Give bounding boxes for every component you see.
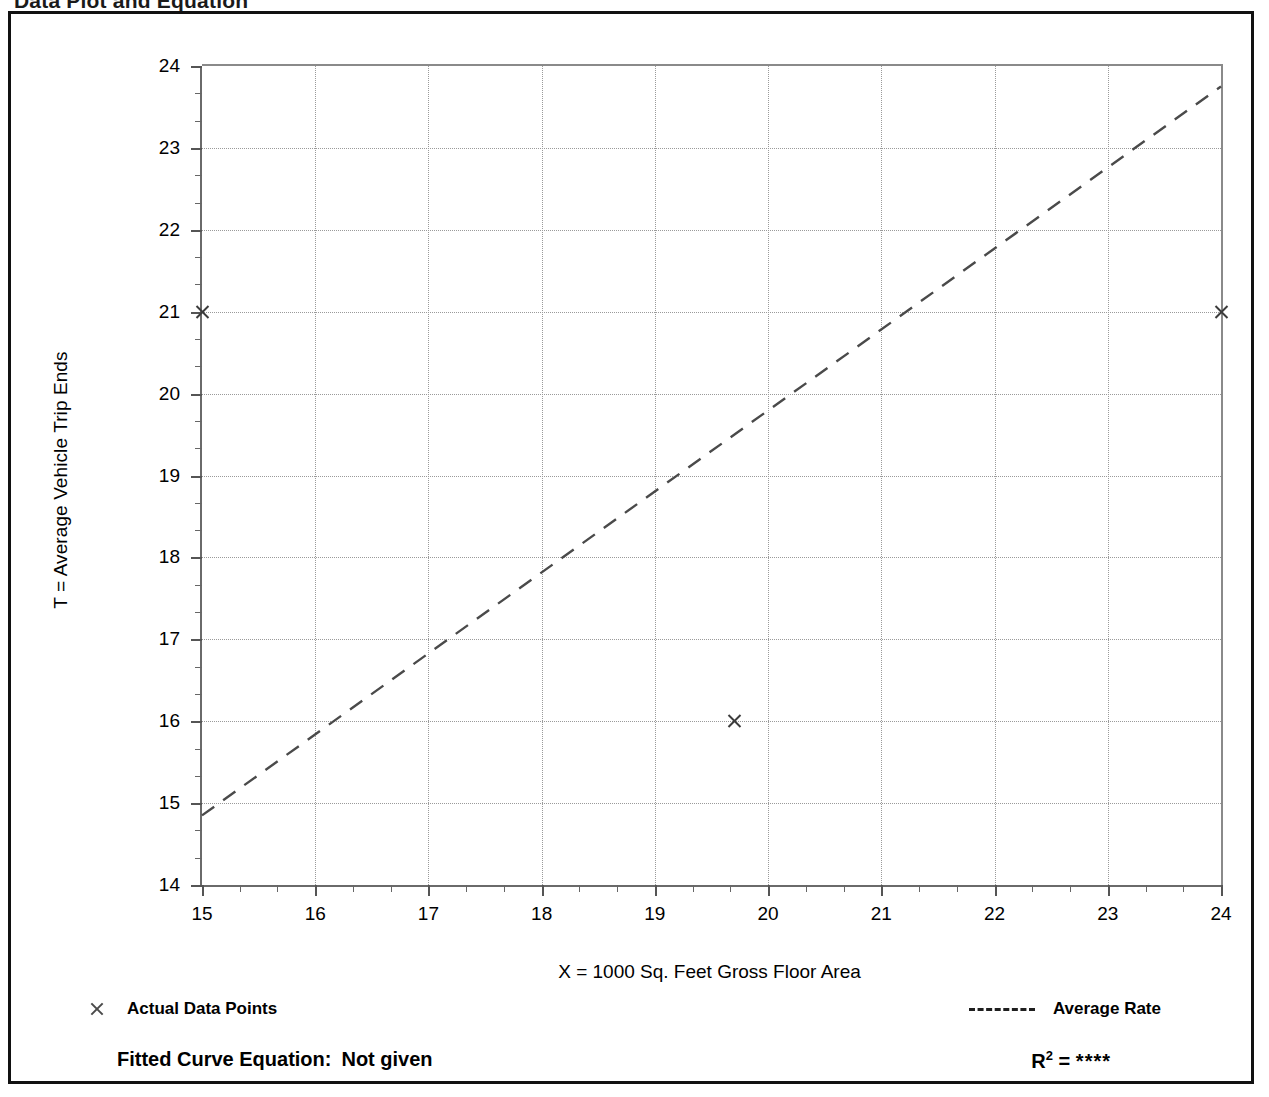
x-tick-minor — [1146, 885, 1147, 892]
x-axis-title: X = 1000 Sq. Feet Gross Floor Area — [200, 961, 1219, 983]
x-tick-major — [1221, 885, 1223, 896]
y-tick-label: 20 — [159, 383, 180, 405]
x-tick-label: 16 — [305, 903, 326, 925]
data-point-marker — [1213, 303, 1230, 320]
y-tick-major — [191, 885, 202, 887]
y-tick-minor — [195, 366, 202, 367]
x-tick-label: 17 — [418, 903, 439, 925]
y-tick-label: 17 — [159, 628, 180, 650]
y-tick-major — [191, 476, 202, 478]
r-squared-value: R2 = **** — [1031, 1048, 1111, 1073]
legend-item-actual-data-points: Actual Data Points — [89, 999, 277, 1019]
x-tick-minor — [919, 885, 920, 892]
y-tick-minor — [195, 749, 202, 750]
x-tick-major — [1108, 885, 1110, 896]
average-rate-trendline — [202, 66, 1221, 885]
data-point-marker — [194, 303, 211, 320]
x-tick-minor — [1032, 885, 1033, 892]
x-tick-major — [881, 885, 883, 896]
y-tick-minor — [195, 585, 202, 586]
r-squared-label: R — [1031, 1050, 1045, 1072]
y-tick-minor — [195, 530, 202, 531]
y-tick-major — [191, 66, 202, 68]
r-squared-equals: = — [1059, 1050, 1071, 1072]
x-tick-minor — [1183, 885, 1184, 892]
x-tick-major — [995, 885, 997, 896]
y-tick-label: 16 — [159, 710, 180, 732]
x-tick-minor — [957, 885, 958, 892]
y-tick-label: 15 — [159, 792, 180, 814]
y-tick-minor — [195, 257, 202, 258]
y-tick-minor — [195, 339, 202, 340]
y-tick-minor — [195, 858, 202, 859]
plot-area: 1516171819202122232414151617181920212223… — [200, 66, 1221, 887]
x-tick-minor — [693, 885, 694, 892]
y-tick-major — [191, 148, 202, 150]
x-tick-minor — [504, 885, 505, 892]
x-tick-minor — [391, 885, 392, 892]
y-tick-minor — [195, 830, 202, 831]
x-tick-minor — [844, 885, 845, 892]
x-tick-major — [315, 885, 317, 896]
y-tick-label: 23 — [159, 137, 180, 159]
x-tick-minor — [240, 885, 241, 892]
y-tick-label: 24 — [159, 55, 180, 77]
y-tick-minor — [195, 503, 202, 504]
x-tick-label: 21 — [871, 903, 892, 925]
x-tick-minor — [617, 885, 618, 892]
y-tick-minor — [195, 284, 202, 285]
x-tick-label: 22 — [984, 903, 1005, 925]
x-tick-minor — [730, 885, 731, 892]
legend-label-average-rate: Average Rate — [1053, 999, 1161, 1019]
x-tick-label: 24 — [1210, 903, 1231, 925]
plot-right-border — [1221, 64, 1223, 885]
y-tick-minor — [195, 694, 202, 695]
x-tick-minor — [466, 885, 467, 892]
x-tick-minor — [277, 885, 278, 892]
y-tick-label: 14 — [159, 874, 180, 896]
y-tick-label: 18 — [159, 546, 180, 568]
y-tick-minor — [195, 93, 202, 94]
x-marker-icon — [89, 1001, 105, 1017]
y-tick-minor — [195, 448, 202, 449]
x-tick-major — [768, 885, 770, 896]
chart-footer: Fitted Curve Equation:Not given R2 = ***… — [11, 1048, 1251, 1088]
y-tick-minor — [195, 776, 202, 777]
fitted-curve-equation-label: Fitted Curve Equation: — [117, 1048, 331, 1070]
x-tick-major — [655, 885, 657, 896]
data-point-marker — [726, 713, 743, 730]
y-axis-title: T = Average Vehicle Trip Ends — [50, 320, 72, 640]
x-tick-major — [202, 885, 204, 896]
y-tick-minor — [195, 203, 202, 204]
fitted-curve-equation: Fitted Curve Equation:Not given — [117, 1048, 433, 1071]
x-tick-minor — [1070, 885, 1071, 892]
chart-panel: T = Average Vehicle Trip Ends 1516171819… — [8, 11, 1254, 1084]
y-tick-major — [191, 803, 202, 805]
y-tick-major — [191, 721, 202, 723]
y-tick-minor — [195, 667, 202, 668]
dashed-line-icon — [969, 1008, 1035, 1011]
x-tick-minor — [579, 885, 580, 892]
y-tick-minor — [195, 175, 202, 176]
y-tick-label: 21 — [159, 301, 180, 323]
x-tick-minor — [353, 885, 354, 892]
x-tick-major — [428, 885, 430, 896]
chart-figure: T = Average Vehicle Trip Ends 1516171819… — [11, 14, 1251, 1081]
x-tick-label: 18 — [531, 903, 552, 925]
fitted-curve-equation-value: Not given — [341, 1048, 432, 1070]
y-tick-minor — [195, 421, 202, 422]
y-tick-minor — [195, 612, 202, 613]
x-tick-minor — [806, 885, 807, 892]
x-tick-label: 19 — [644, 903, 665, 925]
y-tick-major — [191, 557, 202, 559]
chart-legend: Actual Data Points Average Rate — [11, 999, 1251, 1033]
y-tick-label: 19 — [159, 465, 180, 487]
legend-item-average-rate: Average Rate — [969, 999, 1161, 1019]
y-tick-major — [191, 394, 202, 396]
x-tick-label: 23 — [1097, 903, 1118, 925]
y-tick-label: 22 — [159, 219, 180, 241]
r-squared-asterisks: **** — [1076, 1050, 1111, 1072]
x-tick-label: 15 — [191, 903, 212, 925]
x-tick-major — [542, 885, 544, 896]
y-tick-minor — [195, 121, 202, 122]
